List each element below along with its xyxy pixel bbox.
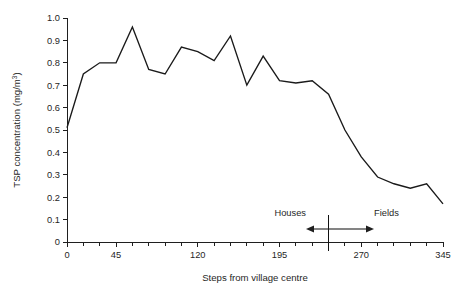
x-tick-label: 0 — [64, 250, 69, 260]
y-axis-title-base: TSP concentration (mg/m — [11, 79, 22, 188]
houses-arrow-icon — [306, 226, 340, 233]
x-axis-title: Steps from village centre — [202, 272, 308, 283]
y-tick-label: 0.6 — [47, 103, 60, 113]
y-axis-title-tail: ) — [11, 72, 22, 75]
x-axis-tick-labels: 045120195270345 — [64, 250, 450, 260]
x-axis-ticks — [67, 242, 443, 247]
fields-region-label: Fields — [374, 208, 399, 218]
houses-region-label: Houses — [274, 208, 306, 218]
x-tick-label: 45 — [111, 250, 121, 260]
y-axis-title: TSP concentration (mg/m3) — [11, 72, 22, 187]
fields-arrow-icon — [340, 226, 374, 233]
y-tick-label: 1.0 — [47, 13, 60, 23]
region-annotation-group: Houses Fields — [274, 208, 399, 251]
tsp-concentration-line-chart: 00.10.20.30.40.50.60.70.80.91.0 04512019… — [0, 0, 468, 297]
y-axis-tick-labels: 00.10.20.30.40.50.60.70.80.91.0 — [47, 13, 60, 247]
y-tick-label: 0.7 — [47, 81, 60, 91]
y-axis-ticks — [63, 18, 67, 242]
y-tick-label: 0.8 — [47, 58, 60, 68]
x-tick-label: 195 — [272, 250, 288, 260]
tsp-series-line — [67, 27, 443, 204]
y-tick-label: 0.1 — [47, 215, 60, 225]
y-tick-label: 0.2 — [47, 193, 60, 203]
x-tick-label: 345 — [435, 250, 451, 260]
x-tick-label: 120 — [190, 250, 206, 260]
x-tick-label: 270 — [354, 250, 370, 260]
chart-figure: 00.10.20.30.40.50.60.70.80.91.0 04512019… — [0, 0, 468, 297]
y-tick-label: 0.5 — [47, 125, 60, 135]
y-tick-label: 0.9 — [47, 36, 60, 46]
y-tick-label: 0 — [55, 237, 60, 247]
y-tick-label: 0.4 — [47, 148, 60, 158]
y-tick-label: 0.3 — [47, 170, 60, 180]
